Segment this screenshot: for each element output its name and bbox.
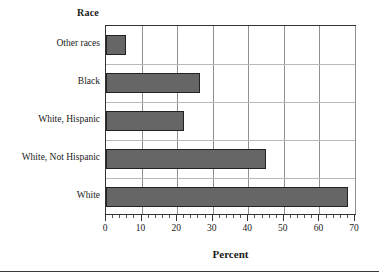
x-tick-major <box>247 215 248 221</box>
x-tick-minor <box>311 215 312 218</box>
x-tick-minor <box>269 215 270 218</box>
x-tick-minor <box>304 215 305 218</box>
x-tick-minor <box>347 215 348 218</box>
x-tick-minor <box>254 215 255 218</box>
x-tick-label: 60 <box>303 223 333 233</box>
x-tick-minor <box>112 215 113 218</box>
x-tick-major <box>141 215 142 221</box>
x-tick-major <box>354 215 355 221</box>
x-tick-label: 10 <box>126 223 156 233</box>
x-tick-minor <box>183 215 184 218</box>
x-tick-minor <box>169 215 170 218</box>
x-tick-minor <box>340 215 341 218</box>
x-tick-minor <box>276 215 277 218</box>
x-tick-major <box>176 215 177 221</box>
x-tick-minor <box>148 215 149 218</box>
gridline-vertical <box>355 26 356 214</box>
category-label: Black <box>78 76 100 87</box>
bars-layer <box>106 26 355 214</box>
x-tick-major <box>283 215 284 221</box>
bar <box>106 111 184 131</box>
x-tick-minor <box>226 215 227 218</box>
x-tick-label: 0 <box>90 223 120 233</box>
x-tick-minor <box>290 215 291 218</box>
category-label: White, Hispanic <box>38 114 100 125</box>
bar <box>106 73 200 93</box>
x-tick-minor <box>190 215 191 218</box>
x-tick-label: 70 <box>339 223 369 233</box>
category-label: White, Not Hispanic <box>22 152 100 163</box>
x-tick-minor <box>262 215 263 218</box>
x-tick-minor <box>197 215 198 218</box>
bar <box>106 149 266 169</box>
chart-title: Race <box>58 7 118 18</box>
category-label: White <box>77 190 100 201</box>
x-tick-minor <box>240 215 241 218</box>
x-tick-major <box>318 215 319 221</box>
x-tick-minor <box>133 215 134 218</box>
bar-chart-figure: Race Other racesBlackWhite, HispanicWhit… <box>0 0 379 280</box>
x-tick-minor <box>155 215 156 218</box>
x-tick-label: 30 <box>197 223 227 233</box>
x-tick-minor <box>297 215 298 218</box>
x-tick-minor <box>219 215 220 218</box>
bar <box>106 35 126 55</box>
x-tick-minor <box>162 215 163 218</box>
x-tick-minor <box>205 215 206 218</box>
x-tick-minor <box>326 215 327 218</box>
x-tick-major <box>212 215 213 221</box>
footer-divider <box>0 271 379 272</box>
x-tick-label: 20 <box>161 223 191 233</box>
plot-area <box>105 25 356 215</box>
x-tick-minor <box>119 215 120 218</box>
category-label: Other races <box>56 38 100 49</box>
x-tick-major <box>105 215 106 221</box>
x-axis-title: Percent <box>105 248 356 260</box>
x-tick-minor <box>126 215 127 218</box>
x-tick-minor <box>233 215 234 218</box>
bar <box>106 187 348 207</box>
x-tick-minor <box>333 215 334 218</box>
x-tick-label: 40 <box>232 223 262 233</box>
x-tick-label: 50 <box>268 223 298 233</box>
